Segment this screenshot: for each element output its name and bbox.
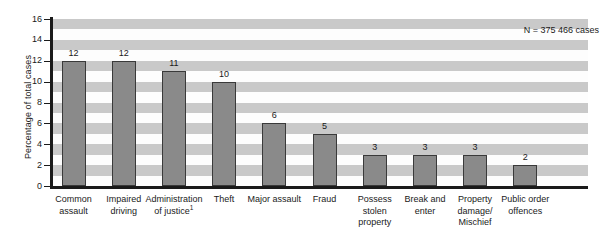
y-axis-tick	[44, 165, 50, 166]
bar[interactable]	[162, 71, 186, 186]
bar-value-label: 3	[473, 143, 478, 152]
bar-value-label: 12	[68, 49, 78, 58]
bar-value-label: 3	[422, 143, 427, 152]
y-axis-tick-label: 4	[0, 140, 42, 149]
bar[interactable]	[363, 155, 387, 186]
bar-group: 3	[413, 19, 437, 186]
bar-group: 3	[463, 19, 487, 186]
y-axis-tick-label: 14	[0, 35, 42, 44]
x-axis-category-line: of justice1	[144, 206, 204, 218]
y-axis-tick	[44, 186, 50, 187]
footnote-marker: 1	[190, 204, 194, 211]
bar-group: 2	[513, 19, 537, 186]
y-axis-tick-label: 12	[0, 56, 42, 65]
y-axis-tick	[44, 144, 50, 145]
y-axis-tick	[44, 61, 50, 62]
bar[interactable]	[212, 82, 236, 186]
bar-group: 12	[62, 19, 86, 186]
y-axis-tick	[44, 82, 50, 83]
y-axis-tick-label: 8	[0, 98, 42, 107]
x-axis-line	[50, 186, 588, 189]
bar-value-label: 3	[372, 143, 377, 152]
bar[interactable]	[262, 123, 286, 186]
bar-group: 3	[363, 19, 387, 186]
y-axis-tick-label: 16	[0, 15, 42, 24]
x-axis-category-label: Public orderoffences	[495, 194, 555, 217]
y-axis-tick	[44, 103, 50, 104]
bar-value-label: 2	[523, 153, 528, 162]
bar[interactable]	[62, 61, 86, 186]
bar-value-label: 11	[169, 59, 178, 68]
bar-chart: Percentage of total cases 0246810121416 …	[0, 0, 611, 248]
bar[interactable]	[463, 155, 487, 186]
y-axis-tick	[44, 40, 50, 41]
bar[interactable]	[313, 134, 337, 186]
bar-group: 6	[262, 19, 286, 186]
x-axis-category-line: Mischief	[445, 217, 505, 229]
bar[interactable]	[112, 61, 136, 186]
bars-layer: 12121110653332	[53, 19, 588, 186]
bar-group: 12	[112, 19, 136, 186]
bar[interactable]	[513, 165, 537, 186]
y-axis-tick-label: 10	[0, 77, 42, 86]
y-axis-tick	[44, 123, 50, 124]
y-axis-tick	[44, 19, 50, 20]
bar-value-label: 5	[322, 122, 327, 131]
sample-size-annotation: N = 375 466 cases	[524, 25, 599, 36]
y-axis-tick-label: 6	[0, 119, 42, 128]
bar-value-label: 6	[272, 111, 277, 120]
bar[interactable]	[413, 155, 437, 186]
bar-group: 5	[313, 19, 337, 186]
bar-value-label: 12	[119, 49, 129, 58]
bar-group: 11	[162, 19, 186, 186]
bar-value-label: 10	[219, 70, 229, 79]
x-axis-category-line: property	[345, 217, 405, 229]
y-axis-tick-label: 2	[0, 161, 42, 170]
bar-group: 10	[212, 19, 236, 186]
x-axis-category-line: offences	[495, 206, 555, 218]
x-axis-category-line: Public order	[495, 194, 555, 206]
x-axis-category-layer: CommonassaultImpaireddrivingAdministrati…	[53, 194, 588, 244]
y-axis-tick-label: 0	[0, 182, 42, 191]
